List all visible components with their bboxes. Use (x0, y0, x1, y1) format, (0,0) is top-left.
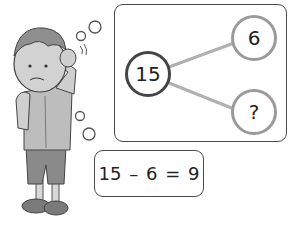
known-part-value: 6 (248, 26, 261, 50)
equation-text: 15 – 6 = 9 (99, 163, 200, 184)
unknown-part-value: ? (249, 100, 260, 124)
thought-bubble-icon (77, 32, 86, 41)
unknown-part-circle: ? (231, 89, 277, 135)
equation-box: 15 – 6 = 9 (94, 150, 204, 197)
whole-value: 15 (135, 62, 160, 86)
whole-circle: 15 (125, 51, 171, 97)
known-part-circle: 6 (231, 15, 277, 61)
number-bond-panel: 15 6 ? (114, 4, 287, 142)
thought-bubble-icon (89, 21, 101, 33)
thought-bubble-icon (76, 112, 85, 121)
thought-bubble-icon (83, 128, 95, 140)
